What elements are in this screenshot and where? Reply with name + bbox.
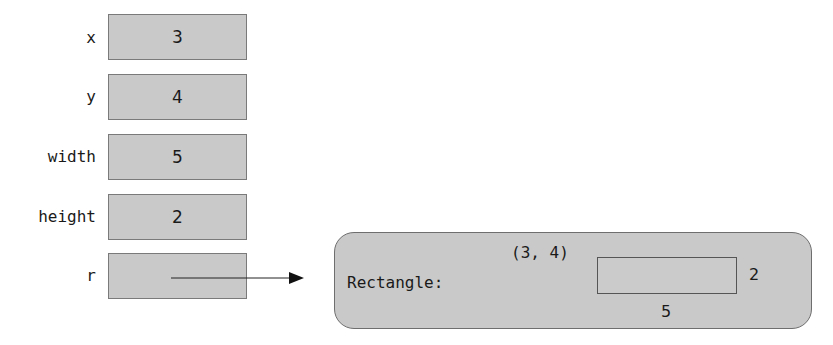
rectangle-object: Rectangle: (3, 4) 2 5 xyxy=(334,232,812,329)
object-type-label: Rectangle: xyxy=(347,273,443,292)
object-origin-label: (3, 4) xyxy=(511,243,569,262)
rectangle-shape xyxy=(597,257,737,294)
object-width-label: 5 xyxy=(661,302,671,321)
object-height-label: 2 xyxy=(749,265,759,284)
